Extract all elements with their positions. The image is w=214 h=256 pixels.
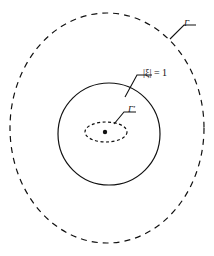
leader-line-outer xyxy=(170,25,196,39)
leader-line-unit-circle xyxy=(125,75,152,97)
outer-dashed-oval xyxy=(10,13,204,243)
label-outer-curve: Γ xyxy=(184,19,189,28)
figure-canvas: Γ |ξ| = 1 Γ′ xyxy=(0,0,214,256)
center-point-dot xyxy=(103,130,107,134)
label-inner-curve: Γ′ xyxy=(128,105,135,114)
unit-circle xyxy=(58,83,160,185)
label-unit-circle: |ξ| = 1 xyxy=(143,68,167,78)
diagram-svg xyxy=(0,0,214,256)
